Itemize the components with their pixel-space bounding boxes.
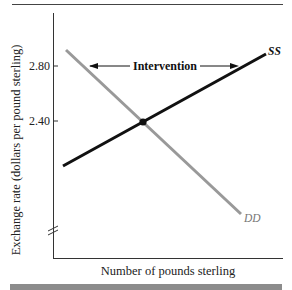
y-axis-title: Exchange rate (dollars per pound sterlin… — [9, 45, 23, 256]
ytick-label-280: 2.80 — [29, 59, 50, 73]
x-axis-title: Number of pounds sterling — [101, 264, 236, 278]
ytick-label-240: 2.40 — [29, 114, 50, 128]
dd-label: DD — [243, 212, 261, 224]
demand-curve-dd — [66, 50, 241, 214]
exchange-rate-chart: 2.80 2.40 Exchange rate (dollars per pou… — [0, 0, 292, 290]
intervention-label: Intervention — [133, 59, 197, 73]
intervention-arrow-right — [200, 63, 239, 69]
intervention-arrow-left — [89, 63, 130, 69]
footer-bar — [10, 284, 282, 290]
equilibrium-point — [139, 118, 146, 125]
ss-label: SS — [268, 45, 281, 57]
